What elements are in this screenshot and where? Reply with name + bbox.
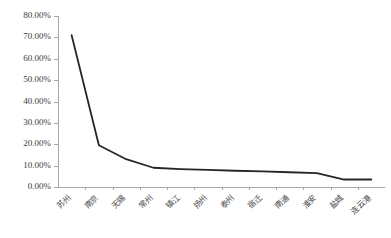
y-axis-tick-label: 50.00%: [23, 74, 51, 84]
y-axis-tick-label: 20.00%: [23, 138, 51, 148]
y-axis-tick-label: 10.00%: [23, 160, 51, 170]
y-axis-tick-label: 30.00%: [23, 117, 51, 127]
y-axis-tick-label: 0.00%: [28, 181, 52, 191]
y-axis-tick-labels: 0.00%10.00%20.00%30.00%40.00%50.00%60.00…: [23, 10, 51, 191]
y-axis-tick-label: 60.00%: [23, 53, 51, 63]
y-axis-tick-label: 40.00%: [23, 96, 51, 106]
y-axis-tick-label: 70.00%: [23, 31, 51, 41]
chart-canvas: 0.00%10.00%20.00%30.00%40.00%50.00%60.00…: [0, 0, 391, 238]
y-axis-tick-label: 80.00%: [23, 10, 51, 20]
line-chart: 0.00%10.00%20.00%30.00%40.00%50.00%60.00…: [0, 0, 391, 238]
